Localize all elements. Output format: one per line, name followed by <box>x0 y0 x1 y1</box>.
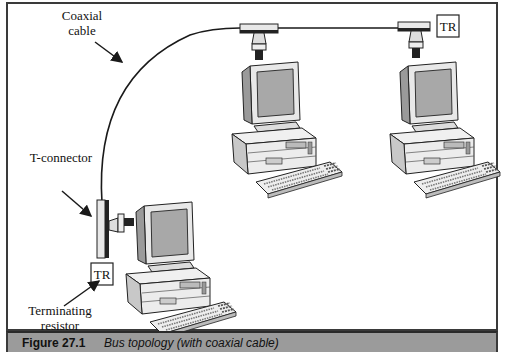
t-connector-left <box>97 200 134 258</box>
coaxial-cable-label-line2: cable <box>52 23 112 38</box>
workstation-right <box>390 58 500 198</box>
terminator-left-label: TR <box>91 267 113 282</box>
terminator-right-label: TR <box>437 19 459 34</box>
terminating-resistor-label: Terminating resistor <box>20 303 100 333</box>
figure-number: Figure 27.1 <box>22 336 85 350</box>
workstation-center <box>232 58 342 198</box>
coaxial-cable-arrow <box>95 42 122 62</box>
t-connector-right <box>398 22 430 58</box>
figure-caption-bar: Figure 27.1 Bus topology (with coaxial c… <box>6 331 498 352</box>
t-connector-center <box>240 24 278 60</box>
t-connector-arrow <box>62 191 91 216</box>
workstation-left <box>126 198 236 338</box>
figure-caption: Bus topology (with coaxial cable) <box>104 336 279 350</box>
coaxial-cable-label-line1: Coaxial <box>52 8 112 23</box>
terminating-resistor-label-line1: Terminating <box>20 303 100 318</box>
coaxial-cable-label: Coaxial cable <box>52 8 112 38</box>
t-connector-label: T-connector <box>16 150 106 165</box>
bus-topology-diagram <box>0 0 507 352</box>
